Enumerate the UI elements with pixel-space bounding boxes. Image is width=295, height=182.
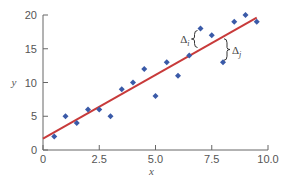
residual-label: Δi: [180, 33, 189, 48]
residual-label: Δj: [232, 44, 242, 59]
y-tick-label: 0: [31, 144, 37, 156]
y-tick-label: 20: [25, 9, 37, 21]
data-point: [198, 26, 204, 32]
data-point: [153, 93, 159, 99]
residual-annotation: Δj: [224, 39, 242, 60]
scatter-chart: 0510152002.55.07.510.0xy ΔiΔj: [0, 0, 295, 182]
y-tick-label: 10: [25, 77, 37, 89]
data-point: [63, 113, 69, 119]
x-axis-label: x: [148, 165, 154, 177]
data-point: [209, 32, 215, 38]
data-point: [130, 80, 136, 86]
x-tick-label: 7.5: [204, 153, 219, 165]
data-point: [119, 86, 125, 92]
x-tick-label: 2.5: [92, 153, 107, 165]
x-tick-label: 5.0: [148, 153, 163, 165]
y-tick-label: 15: [25, 43, 37, 55]
data-point: [243, 12, 249, 18]
x-tick-label: 0: [40, 153, 46, 165]
data-point: [108, 113, 114, 119]
data-point: [231, 19, 237, 25]
y-tick-label: 5: [31, 110, 37, 122]
residual-annotation: Δi: [180, 31, 197, 48]
regression-line: [43, 18, 257, 139]
axes: 0510152002.55.07.510.0xy: [11, 9, 279, 177]
regression-line-path: [43, 18, 257, 139]
brace-icon: [224, 39, 230, 60]
data-point: [141, 66, 147, 72]
x-tick-label: 10.0: [257, 153, 278, 165]
brace-icon: [192, 31, 198, 48]
data-point: [175, 73, 181, 79]
data-point: [164, 59, 170, 65]
y-axis-label: y: [11, 76, 17, 88]
